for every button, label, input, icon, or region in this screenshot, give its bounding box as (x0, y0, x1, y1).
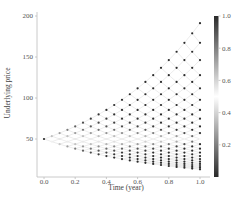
tree-edge (177, 100, 185, 105)
tree-node (199, 138, 201, 140)
tree-edge (184, 160, 192, 161)
tree-node (121, 118, 123, 120)
tree-edge (106, 133, 114, 136)
tree-edge (177, 166, 185, 167)
tree-node (105, 109, 107, 111)
y-ticks: 50100150200 (23, 12, 38, 143)
tree-edge (138, 149, 146, 151)
tree-edge (99, 130, 107, 133)
tree-edge (122, 110, 130, 115)
tree-node (199, 74, 201, 76)
tree-edge (192, 153, 200, 155)
tree-node (183, 74, 185, 76)
tree-node (199, 165, 201, 167)
tree-edge (169, 159, 177, 160)
tree-edge (130, 94, 138, 100)
tree-node (113, 141, 115, 143)
tree-edge (192, 119, 200, 123)
tree-node (129, 122, 131, 124)
tree-edge (169, 153, 177, 155)
tree-node (121, 109, 123, 111)
tree-edge (169, 166, 177, 167)
tree-node (160, 159, 162, 161)
tree-edge (192, 165, 200, 166)
tree-edge (153, 75, 161, 82)
tree-edge (161, 82, 169, 88)
tree-node (160, 135, 162, 137)
tree-edge (184, 168, 192, 169)
tree-edge (184, 159, 192, 160)
tree-edge (169, 100, 177, 105)
tree-edge (184, 154, 192, 156)
tree-node (121, 143, 123, 145)
tree-edge (184, 146, 192, 148)
tree-node (137, 109, 139, 111)
tree-edge (161, 162, 169, 163)
tree-node (176, 153, 178, 155)
tree-edge (169, 123, 177, 127)
tree-node (160, 156, 162, 158)
tree-node (105, 148, 107, 150)
tree-edge (83, 144, 91, 146)
tree-edge (192, 156, 200, 158)
tree-edge (122, 139, 130, 142)
colorbar-tick-label: 0.4 (222, 109, 231, 117)
tree-edge (169, 165, 177, 166)
y-axis-label: Underlying price (3, 67, 12, 119)
tree-edge (145, 82, 153, 88)
tree-edge (106, 105, 114, 110)
tree-edge (161, 156, 169, 158)
tree-edge (177, 159, 185, 160)
tree-edge (184, 136, 192, 139)
tree-node (183, 155, 185, 157)
tree-edge (106, 110, 114, 115)
tree-node (183, 165, 185, 167)
tree-edge (169, 130, 177, 133)
tree-node (168, 87, 170, 89)
tree-edge (192, 114, 200, 118)
tree-edge (169, 110, 177, 115)
tree-edge (177, 60, 185, 68)
tree-edge (145, 158, 153, 159)
tree-edge (192, 88, 200, 94)
tree-edge (91, 153, 99, 155)
colorbar: 0.20.40.60.81.0 (214, 12, 231, 177)
tree-node (74, 143, 76, 145)
tree-edge (153, 159, 161, 160)
tree-edge (184, 114, 192, 118)
colorbar-gradient (214, 16, 219, 177)
colorbar-tick-label: 0.2 (222, 141, 231, 149)
tree-edge (52, 133, 60, 136)
tree-edge (169, 75, 177, 82)
tree-edge (145, 133, 153, 136)
tree-node (66, 135, 68, 137)
tree-edge (138, 159, 146, 160)
tree-node (199, 158, 201, 160)
tree-node (137, 99, 139, 101)
tree-edge (99, 133, 107, 136)
tree-edge (122, 100, 130, 105)
tree-edge (122, 158, 130, 159)
tree-node (199, 148, 201, 150)
tree-edge (169, 136, 177, 139)
tree-edge (184, 52, 192, 60)
tree-edge (169, 154, 177, 156)
tree-edge (145, 160, 153, 161)
tree-edge (75, 144, 83, 146)
tree-edge (177, 149, 185, 151)
tree-node (199, 99, 201, 101)
tree-node (160, 81, 162, 83)
tree-edge (177, 52, 185, 60)
tree-edge (130, 151, 138, 153)
tree-edge (138, 136, 146, 139)
y-tick-label: 50 (26, 135, 34, 143)
tree-edge (122, 156, 130, 158)
tree-edge (169, 114, 177, 118)
tree-edge (106, 130, 114, 133)
colorbar-tick-label: 1.0 (222, 12, 231, 20)
tree-edge (91, 130, 99, 133)
tree-edge (83, 146, 91, 148)
plot-area (43, 22, 201, 170)
tree-edge (192, 43, 200, 52)
tree-node (160, 129, 162, 131)
